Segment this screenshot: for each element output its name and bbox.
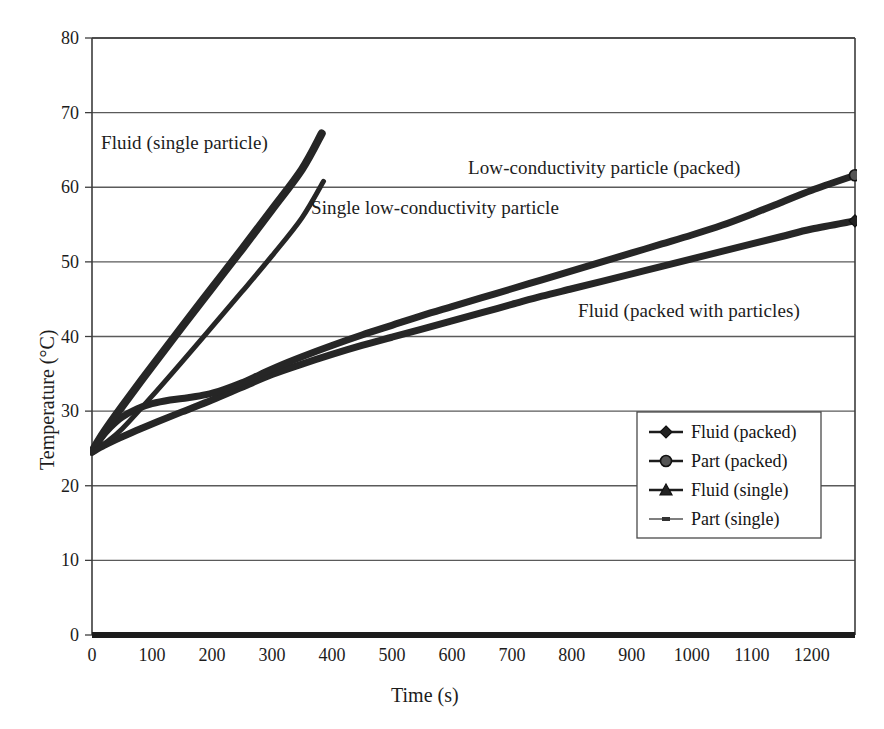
legend-label: Part (single) — [691, 509, 779, 530]
series-end-marker — [662, 517, 670, 521]
legend-label: Fluid (packed) — [691, 422, 796, 443]
y-tick-label: 0 — [70, 625, 79, 645]
x-tick-label: 800 — [558, 645, 585, 665]
legend: Fluid (packed)Part (packed)Fluid (single… — [637, 412, 821, 538]
y-tick-label: 60 — [61, 177, 79, 197]
x-tick-label: 1000 — [674, 645, 710, 665]
series-group — [92, 134, 861, 453]
chart-plot-area: 0102030405060708001002003004005006007008… — [0, 0, 884, 729]
x-tick-label: 100 — [138, 645, 165, 665]
chart-annotation: Low-conductivity particle (packed) — [468, 157, 740, 179]
y-tick-label: 40 — [61, 327, 79, 347]
y-tick-label: 50 — [61, 252, 79, 272]
series-end-marker — [661, 456, 672, 467]
legend-label: Part (packed) — [691, 451, 787, 472]
x-tick-label: 600 — [438, 645, 465, 665]
x-tick-label: 400 — [318, 645, 345, 665]
y-tick-label: 10 — [61, 550, 79, 570]
x-tick-label: 0 — [88, 645, 97, 665]
y-tick-label: 80 — [61, 28, 79, 48]
x-tick-label: 1100 — [734, 645, 769, 665]
x-tick-label: 500 — [378, 645, 405, 665]
series-end-marker — [850, 170, 861, 181]
y-tick-label: 70 — [61, 103, 79, 123]
x-axis-title: Time (s) — [391, 684, 459, 707]
y-tick-label: 20 — [61, 476, 79, 496]
y-tick-label: 30 — [61, 401, 79, 421]
x-tick-label: 900 — [618, 645, 645, 665]
chart-container: 0102030405060708001002003004005006007008… — [0, 0, 884, 729]
legend-label: Fluid (single) — [691, 480, 789, 501]
x-tick-label: 300 — [258, 645, 285, 665]
x-tick-label: 200 — [198, 645, 225, 665]
x-tick-label: 700 — [498, 645, 525, 665]
y-axis-title: Temperature (°C) — [36, 330, 59, 470]
chart-annotation: Fluid (packed with particles) — [578, 300, 800, 322]
chart-annotation: Fluid (single particle) — [101, 132, 268, 154]
chart-annotation: Single low-conductivity particle — [311, 197, 559, 219]
x-tick-label: 1200 — [794, 645, 830, 665]
